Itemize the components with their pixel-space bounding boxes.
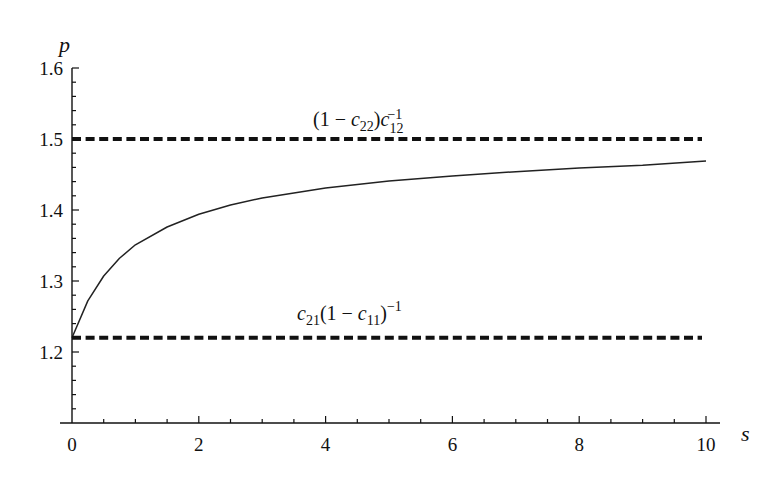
lower-bound-annotation: c21(1 − c11)−1 <box>297 299 402 328</box>
x-axis-label: s <box>741 421 750 446</box>
y-tick-label: 1.2 <box>39 342 63 363</box>
y-axis-label: p <box>57 32 70 57</box>
y-tick-label: 1.5 <box>39 129 63 150</box>
y-tick-label: 1.4 <box>39 200 63 221</box>
x-tick-label: 6 <box>448 434 458 455</box>
x-tick-label: 0 <box>67 434 77 455</box>
y-tick-label: 1.3 <box>39 271 63 292</box>
x-tick-label: 10 <box>697 434 716 455</box>
chart-canvas: 02468101.21.31.41.51.6 p s (1 − c22)c12−… <box>0 0 780 485</box>
y-tick-label: 1.6 <box>39 58 63 79</box>
x-tick-label: 2 <box>194 434 204 455</box>
upper-bound-annotation: (1 − c22)c12−1 <box>313 107 403 136</box>
x-tick-label: 4 <box>321 434 331 455</box>
x-tick-label: 8 <box>574 434 584 455</box>
